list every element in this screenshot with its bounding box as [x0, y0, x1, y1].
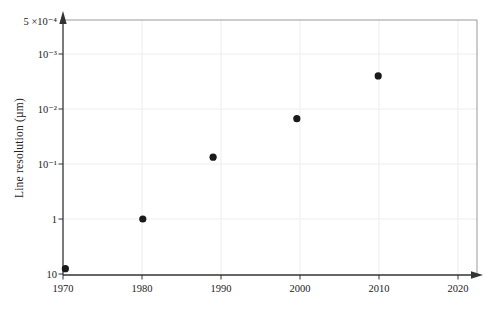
chart-canvas: 19701980199020002010202010⁻³10⁻²10⁻¹1105… [0, 0, 495, 309]
x-tick-label: 1980 [132, 283, 153, 294]
y-tick-label: 10 [47, 269, 58, 280]
y-tick-label: 10⁻² [38, 104, 57, 115]
data-point [62, 265, 69, 272]
data-point [210, 154, 217, 161]
y-axis-top-label: 5 ×10⁻⁴ [24, 16, 58, 27]
y-axis-title: Line resolution (µm) [13, 98, 25, 198]
x-tick-label: 2020 [448, 283, 469, 294]
data-point [375, 72, 382, 79]
figure: 19701980199020002010202010⁻³10⁻²10⁻¹1105… [0, 0, 495, 309]
x-tick-label: 1990 [211, 283, 232, 294]
y-axis-arrowhead [59, 11, 66, 24]
y-tick-label: 10⁻¹ [38, 159, 57, 170]
data-point [139, 215, 146, 222]
x-tick-label: 2010 [369, 283, 390, 294]
y-tick-label: 10⁻³ [38, 49, 57, 60]
x-tick-label: 1970 [53, 283, 74, 294]
y-tick-label: 1 [52, 214, 57, 225]
x-tick-label: 2000 [290, 283, 311, 294]
data-point [293, 115, 300, 122]
